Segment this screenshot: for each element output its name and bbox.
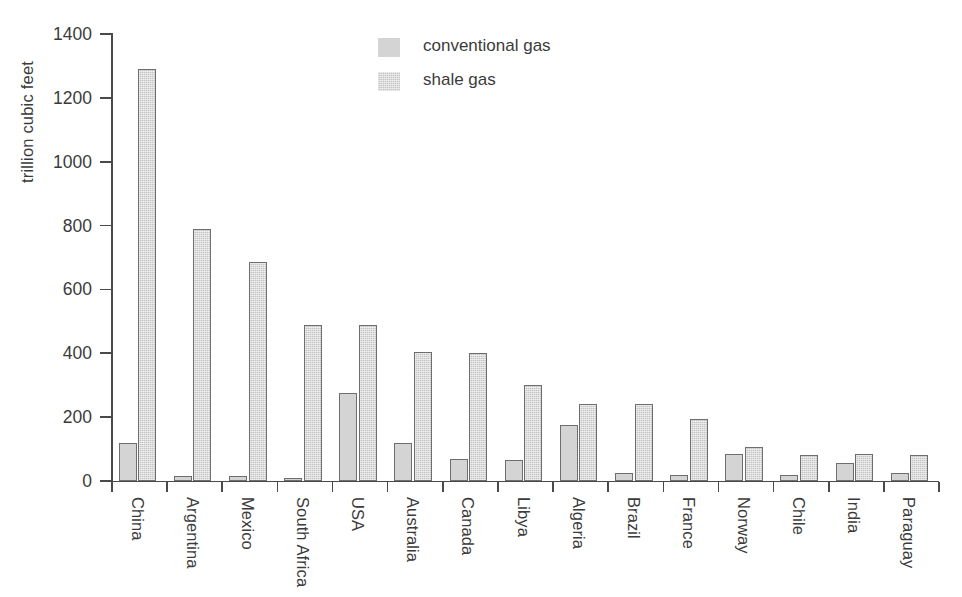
y-tick-mark bbox=[100, 161, 111, 163]
bar-conventional bbox=[505, 460, 523, 481]
x-axis-label: Paraguay bbox=[899, 497, 918, 568]
bar-shale bbox=[138, 69, 156, 481]
bar-shale bbox=[469, 353, 487, 481]
bar-shale bbox=[635, 404, 653, 481]
bar-shale bbox=[304, 325, 322, 481]
bar-conventional bbox=[780, 475, 798, 481]
x-axis-label: Norway bbox=[734, 497, 753, 554]
bar-shale bbox=[193, 229, 211, 481]
x-tick-mark bbox=[332, 482, 334, 492]
y-tick-mark bbox=[100, 289, 111, 291]
bar-conventional bbox=[450, 459, 468, 481]
bar-conventional bbox=[891, 473, 909, 481]
x-axis-label: Chile bbox=[789, 497, 808, 535]
x-axis-label: China bbox=[128, 497, 147, 541]
x-tick-mark bbox=[828, 482, 830, 492]
bar-conventional bbox=[284, 478, 302, 481]
x-axis-label: France bbox=[679, 497, 698, 549]
bar-shale bbox=[690, 419, 708, 481]
y-tick-label: 1400 bbox=[20, 24, 92, 45]
x-tick-mark bbox=[883, 482, 885, 492]
x-axis-label: Argentina bbox=[183, 497, 202, 569]
x-axis-label: Canada bbox=[458, 497, 477, 555]
y-tick-label: 800 bbox=[20, 215, 92, 236]
bar-shale bbox=[249, 262, 267, 481]
x-tick-mark bbox=[166, 482, 168, 492]
bar-conventional bbox=[119, 443, 137, 481]
y-tick-label: 600 bbox=[20, 279, 92, 300]
legend-swatch-shale-icon bbox=[378, 72, 400, 91]
x-tick-mark bbox=[111, 482, 113, 492]
y-tick-mark bbox=[100, 352, 111, 354]
y-tick-label: 0 bbox=[20, 471, 92, 492]
x-tick-mark bbox=[552, 482, 554, 492]
y-axis-title: trillion cubic feet bbox=[18, 22, 37, 222]
y-tick-mark bbox=[100, 416, 111, 418]
y-tick-mark bbox=[100, 97, 111, 99]
x-axis-label: Algeria bbox=[569, 497, 588, 549]
y-tick-label: 400 bbox=[20, 343, 92, 364]
x-axis-label: Australia bbox=[403, 497, 422, 562]
legend-label-conventional: conventional gas bbox=[423, 36, 551, 56]
bar-conventional bbox=[339, 393, 357, 481]
y-tick-label: 1000 bbox=[20, 151, 92, 172]
bar-conventional bbox=[615, 473, 633, 481]
x-tick-mark bbox=[442, 482, 444, 492]
y-tick-mark bbox=[100, 225, 111, 227]
x-tick-mark bbox=[607, 482, 609, 492]
x-axis-label: India bbox=[844, 497, 863, 533]
bar-shale bbox=[745, 447, 763, 481]
bar-conventional bbox=[394, 443, 412, 481]
x-axis-label: South Africa bbox=[293, 497, 312, 587]
y-tick-mark bbox=[100, 480, 111, 482]
x-tick-mark bbox=[663, 482, 665, 492]
x-axis-label: Libya bbox=[514, 497, 533, 537]
bar-shale bbox=[414, 352, 432, 481]
bar-shale bbox=[855, 454, 873, 481]
y-tick-mark bbox=[100, 33, 111, 35]
bar-shale bbox=[910, 455, 928, 481]
bar-conventional bbox=[670, 475, 688, 481]
legend-swatch-conventional-icon bbox=[378, 38, 400, 57]
bar-conventional bbox=[725, 454, 743, 481]
legend-label-shale: shale gas bbox=[423, 70, 496, 90]
x-tick-mark bbox=[497, 482, 499, 492]
bar-conventional bbox=[174, 476, 192, 481]
bar-conventional bbox=[560, 425, 578, 481]
x-axis-label: USA bbox=[348, 497, 367, 531]
y-tick-label: 200 bbox=[20, 407, 92, 428]
x-tick-mark bbox=[718, 482, 720, 492]
x-tick-mark bbox=[387, 482, 389, 492]
y-axis-line bbox=[111, 33, 113, 482]
y-tick-label: 1200 bbox=[20, 87, 92, 108]
x-axis-label: Brazil bbox=[624, 497, 643, 539]
bar-conventional bbox=[836, 463, 854, 481]
x-axis-label: Mexico bbox=[238, 497, 257, 550]
bar-conventional bbox=[229, 476, 247, 481]
bar-shale bbox=[524, 385, 542, 481]
x-tick-mark bbox=[938, 482, 940, 492]
bar-chart-figure: trillion cubic feet 02004006008001000120… bbox=[0, 0, 962, 597]
x-tick-mark bbox=[221, 482, 223, 492]
bar-shale bbox=[579, 404, 597, 481]
bar-shale bbox=[359, 325, 377, 481]
bar-shale bbox=[800, 455, 818, 481]
x-tick-mark bbox=[277, 482, 279, 492]
x-tick-mark bbox=[773, 482, 775, 492]
